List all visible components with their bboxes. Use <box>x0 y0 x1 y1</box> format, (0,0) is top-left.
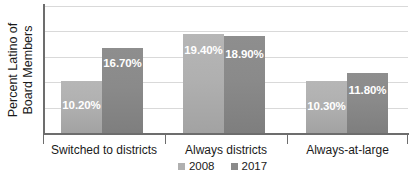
x-axis-category-label-2: Always districts <box>165 143 287 157</box>
y-axis-title-line2: Board Members <box>21 23 36 118</box>
x-axis-category-label-3: Always-at-large <box>287 143 408 157</box>
bar-2017-switched-to-districts[interactable]: 16.70% <box>102 48 143 134</box>
gridline-20 <box>43 31 408 32</box>
bar-value-label: 11.80% <box>347 84 388 96</box>
bar-value-label: 10.20% <box>61 99 102 111</box>
x-axis-category-label-1: Switched to districts <box>43 143 165 157</box>
chart-legend: 2008 2017 <box>0 160 415 172</box>
bar-value-label: 19.40% <box>183 44 224 56</box>
bar-2017-always-at-large[interactable]: 11.80% <box>347 73 388 134</box>
y-axis-line <box>43 4 45 135</box>
legend-label: 2008 <box>189 160 215 172</box>
gridline-25 <box>43 6 408 7</box>
bar-2017-always-districts[interactable]: 18.90% <box>224 36 265 134</box>
bar-chart: Percent Latino of Board Members 10.20% 1… <box>0 0 415 175</box>
legend-item-2008[interactable]: 2008 <box>178 160 215 172</box>
bar-2008-always-districts[interactable]: 19.40% <box>183 34 224 134</box>
y-axis-title: Percent Latino of Board Members <box>0 0 42 140</box>
bar-2008-always-at-large[interactable]: 10.30% <box>306 81 347 134</box>
plot-area: 10.20% 16.70% 19.40% 18.90% 10.30% 11.80… <box>43 5 408 134</box>
y-axis-title-line1: Percent Latino of <box>6 23 21 118</box>
bar-value-label: 16.70% <box>102 57 143 69</box>
bar-2008-switched-to-districts[interactable]: 10.20% <box>61 81 102 134</box>
legend-label: 2017 <box>242 160 268 172</box>
legend-item-2017[interactable]: 2017 <box>231 160 268 172</box>
legend-swatch-icon <box>178 163 185 170</box>
legend-swatch-icon <box>231 163 238 170</box>
x-axis-line <box>43 133 409 135</box>
bar-value-label: 18.90% <box>224 48 265 60</box>
bar-value-label: 10.30% <box>306 100 347 112</box>
